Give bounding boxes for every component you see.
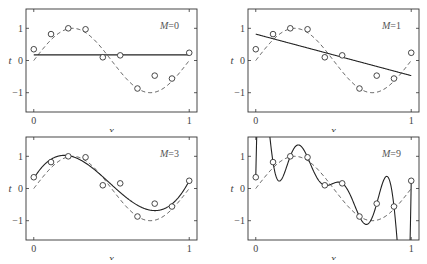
- data-point: [374, 73, 380, 79]
- plot-panel-m1: 01−101xtM=1: [222, 0, 427, 132]
- data-point: [48, 31, 54, 37]
- polynomial-fit-curve: [34, 155, 189, 210]
- true-function-curve: [34, 156, 189, 220]
- y-axis-label: t: [8, 54, 12, 66]
- data-point: [100, 54, 106, 60]
- data-point: [152, 201, 158, 207]
- data-point: [391, 204, 397, 210]
- x-tick-label: 0: [253, 243, 258, 254]
- data-point: [186, 50, 192, 56]
- data-point: [186, 178, 192, 184]
- data-point: [31, 174, 37, 180]
- y-tick-label: 1: [18, 23, 23, 34]
- data-point: [339, 181, 345, 187]
- x-axis-label: x: [108, 252, 114, 260]
- data-point: [117, 181, 123, 187]
- data-point: [100, 182, 106, 188]
- y-tick-label: 0: [240, 183, 245, 194]
- plot-m0: 01−101xtM=0: [0, 0, 214, 132]
- x-tick-label: 0: [253, 115, 258, 126]
- data-point: [83, 26, 89, 32]
- y-tick-label: −1: [12, 215, 23, 226]
- data-point: [253, 46, 259, 52]
- data-point: [65, 154, 71, 160]
- data-point: [31, 46, 37, 52]
- data-point: [357, 86, 363, 92]
- x-tick-label: 1: [187, 243, 192, 254]
- x-tick-label: 0: [31, 115, 36, 126]
- data-point: [48, 159, 54, 165]
- data-point: [287, 154, 293, 160]
- data-point: [287, 26, 293, 32]
- data-point: [305, 26, 311, 32]
- model-order-label: M=3: [159, 148, 179, 159]
- data-point: [357, 214, 363, 220]
- true-function-curve: [34, 28, 189, 92]
- polynomial-fit-curve: [256, 34, 411, 76]
- data-point: [339, 53, 345, 59]
- plot-panel-m9: 01−101xtM=9: [222, 128, 427, 260]
- x-tick-label: 1: [409, 243, 414, 254]
- true-function-curve: [256, 28, 411, 92]
- y-tick-label: 1: [240, 23, 245, 34]
- y-tick-label: −1: [12, 87, 23, 98]
- x-tick-label: 1: [409, 115, 414, 126]
- y-tick-label: −1: [234, 215, 245, 226]
- y-tick-label: 0: [18, 183, 23, 194]
- plot-panel-m0: 01−101xtM=0: [0, 0, 214, 132]
- y-axis-label: t: [230, 182, 234, 194]
- model-order-label: M=1: [381, 20, 401, 31]
- plot-m9: 01−101xtM=9: [222, 128, 427, 260]
- data-point: [305, 154, 311, 160]
- data-point: [408, 50, 414, 56]
- data-point: [391, 76, 397, 82]
- x-tick-label: 1: [187, 115, 192, 126]
- data-point: [135, 214, 141, 220]
- data-point: [65, 26, 71, 32]
- y-tick-label: 1: [18, 151, 23, 162]
- data-point: [374, 201, 380, 207]
- plot-m1: 01−101xtM=1: [222, 0, 427, 132]
- data-point: [169, 204, 175, 210]
- y-axis-label: t: [8, 182, 12, 194]
- data-point: [322, 54, 328, 60]
- model-order-label: M=0: [159, 20, 179, 31]
- data-point: [253, 174, 259, 180]
- data-point: [135, 86, 141, 92]
- y-tick-label: −1: [234, 87, 245, 98]
- data-point: [83, 154, 89, 160]
- true-function-curve: [256, 156, 411, 220]
- data-point: [270, 159, 276, 165]
- plot-m3: 01−101xtM=3: [0, 128, 214, 260]
- model-order-label: M=9: [381, 148, 401, 159]
- y-axis-label: t: [230, 54, 234, 66]
- x-tick-label: 0: [31, 243, 36, 254]
- data-point: [408, 178, 414, 184]
- y-tick-label: 0: [240, 55, 245, 66]
- y-tick-label: 0: [18, 55, 23, 66]
- data-point: [152, 73, 158, 79]
- plot-panel-m3: 01−101xtM=3: [0, 128, 214, 260]
- data-point: [117, 53, 123, 59]
- y-tick-label: 1: [240, 151, 245, 162]
- data-point: [322, 182, 328, 188]
- data-point: [169, 76, 175, 82]
- data-point: [270, 31, 276, 37]
- x-axis-label: x: [330, 252, 336, 260]
